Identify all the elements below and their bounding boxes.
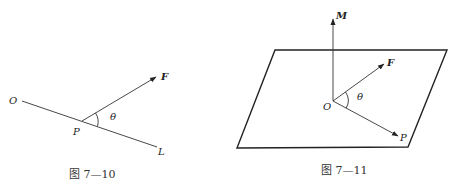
label-p: P [399,132,407,143]
diagram-canvas: O P L F θ 图 7—10 M F O θ P 图 7—11 [0,0,455,187]
label-m: M [335,10,348,21]
angle-arc [346,92,349,108]
label-f: F [160,71,169,82]
label-o: O [9,95,17,106]
label-theta: θ [357,91,363,102]
line-ol [22,101,157,147]
angle-arc [96,113,99,126]
vector-f [82,77,156,121]
figure-7-11: M F O θ P 图 7—11 [237,10,447,177]
vector-p [333,101,398,136]
label-p: P [72,126,80,137]
label-f: F [386,57,395,68]
label-l: L [157,146,165,157]
label-theta: θ [110,111,116,122]
plane [237,50,447,148]
label-o: O [323,101,331,112]
caption-7-11: 图 7—11 [321,164,368,177]
figure-7-10: O P L F θ 图 7—10 [9,71,169,181]
caption-7-10: 图 7—10 [69,168,116,181]
